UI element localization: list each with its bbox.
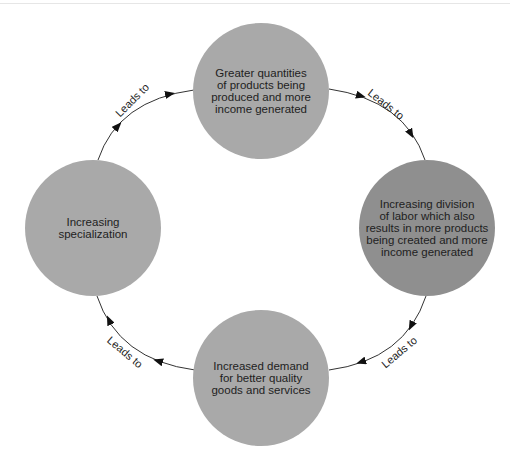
node-greater-quantities: Greater quantities of products being pro…: [193, 23, 329, 159]
node-label: Increased demand for better quality good…: [211, 360, 310, 396]
node-division-of-labor: Increasing division of labor which also …: [359, 160, 495, 296]
node-increasing-specialization: Increasing specialization: [25, 160, 161, 296]
node-label: Greater quantities of products being pro…: [211, 67, 311, 115]
node-increased-demand: Increased demand for better quality good…: [193, 310, 329, 446]
node-label: Increasing division of labor which also …: [366, 198, 489, 258]
node-label: Increasing specialization: [58, 216, 127, 240]
arrow-left-to-top: [98, 90, 194, 160]
